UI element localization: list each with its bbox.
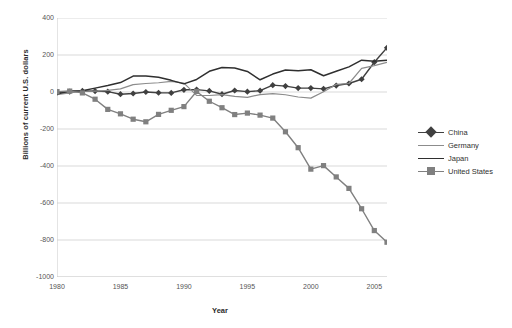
data-point-marker — [92, 97, 97, 102]
data-point-marker — [67, 88, 72, 93]
data-point-marker — [244, 89, 250, 95]
data-point-marker — [308, 85, 314, 91]
data-point-marker — [257, 88, 263, 94]
chart-legend: ChinaGermanyJapanUnited States — [418, 126, 493, 178]
data-point-marker — [169, 108, 174, 113]
y-tick-label: -600 — [14, 199, 54, 207]
y-axis-tick-labels: 4002000-200-400-600-800-1000 — [8, 0, 54, 328]
data-point-marker — [334, 174, 339, 179]
data-point-marker — [308, 167, 313, 172]
plot-area — [57, 18, 387, 277]
legend-item-china[interactable]: China — [418, 126, 493, 139]
data-point-marker — [155, 90, 161, 96]
legend-label: United States — [448, 167, 493, 176]
data-point-marker — [257, 113, 262, 118]
data-point-marker — [232, 112, 237, 117]
y-tick-label: -800 — [14, 236, 54, 244]
legend-key-icon — [418, 140, 444, 151]
data-point-marker — [372, 228, 377, 233]
x-tick-label: 2000 — [291, 283, 331, 290]
chart-figure: Billions of current U.S. dollars Year 40… — [0, 0, 512, 328]
x-tick-label: 1980 — [37, 283, 77, 290]
plot-svg — [57, 18, 387, 277]
data-point-marker — [57, 89, 60, 94]
data-point-marker — [143, 89, 149, 95]
series-united-states — [57, 88, 387, 244]
data-point-marker — [118, 111, 123, 116]
data-point-marker — [206, 88, 212, 94]
legend-item-germany[interactable]: Germany — [418, 139, 493, 152]
legend-key-icon — [418, 166, 444, 177]
data-point-marker — [384, 240, 387, 245]
data-point-marker — [105, 89, 111, 95]
legend-key-icon — [418, 127, 444, 138]
x-tick-label: 1990 — [164, 283, 204, 290]
data-point-marker — [131, 117, 136, 122]
data-point-marker — [207, 99, 212, 104]
x-axis-title: Year — [0, 306, 440, 315]
legend-label: Germany — [448, 141, 479, 150]
data-point-marker — [194, 89, 199, 94]
y-tick-label: -1000 — [14, 273, 54, 281]
y-tick-label: -200 — [14, 125, 54, 133]
data-point-marker — [245, 110, 250, 115]
data-point-marker — [282, 83, 288, 89]
data-point-marker — [219, 105, 224, 110]
data-point-marker — [283, 129, 288, 134]
legend-key-icon — [418, 153, 444, 164]
legend-label: China — [448, 128, 468, 137]
series-japan — [57, 60, 387, 94]
legend-item-japan[interactable]: Japan — [418, 152, 493, 165]
data-point-marker — [168, 90, 174, 96]
data-point-marker — [295, 85, 301, 91]
data-point-marker — [321, 163, 326, 168]
data-point-marker — [130, 90, 136, 96]
data-point-marker — [181, 104, 186, 109]
series-line — [57, 60, 387, 94]
data-point-marker — [143, 119, 148, 124]
data-point-marker — [270, 82, 276, 88]
x-tick-label: 1985 — [100, 283, 140, 290]
data-point-marker — [270, 115, 275, 120]
data-point-marker — [359, 206, 364, 211]
x-tick-label: 1995 — [227, 283, 267, 290]
legend-label: Japan — [448, 154, 468, 163]
data-point-marker — [105, 107, 110, 112]
series-line — [57, 91, 387, 242]
x-tick-label: 2005 — [354, 283, 394, 290]
data-point-marker — [232, 87, 238, 93]
y-tick-label: 400 — [14, 14, 54, 22]
legend-item-united-states[interactable]: United States — [418, 165, 493, 178]
y-tick-label: -400 — [14, 162, 54, 170]
data-point-marker — [156, 112, 161, 117]
data-point-marker — [80, 90, 85, 95]
data-point-marker — [346, 186, 351, 191]
y-tick-label: 0 — [14, 88, 54, 96]
y-tick-label: 200 — [14, 51, 54, 59]
data-point-marker — [296, 145, 301, 150]
